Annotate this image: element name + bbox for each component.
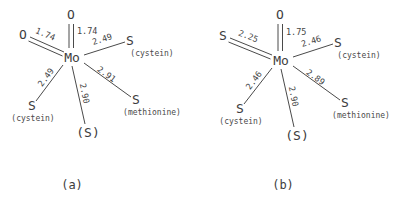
atom-s-upper-right-a: S — [126, 34, 134, 47]
ligand-name-lower-right-a: (methionine) — [123, 108, 181, 117]
atom-s-lower-left-b: S — [236, 102, 244, 115]
atom-s-upper-right-b: S — [334, 36, 342, 49]
figure-root: O O Mo S (cystein) S (cystein) (S) S (me… — [0, 0, 410, 207]
panel-caption-a: (a) — [61, 179, 83, 191]
bond-mo-s-upperleft-2 — [229, 42, 271, 59]
ligand-name-lower-left-a: (cystein) — [11, 114, 54, 123]
atom-o-top-b: O — [276, 8, 284, 21]
panel-caption-b: (b) — [272, 179, 294, 191]
atom-s-down-b: (S) — [285, 129, 308, 142]
atom-s-lower-right-a: S — [132, 93, 140, 106]
atom-mo-center-b: Mo — [273, 54, 289, 67]
distance-top-a: 1.74 — [77, 27, 97, 36]
bond-mo-s-upperright — [84, 42, 125, 55]
panel-b: O S Mo S (cystein) S (cystein) (S) S (me… — [205, 0, 410, 207]
atom-o-top-a: O — [67, 8, 75, 21]
bond-mo-o-upperleft-2 — [29, 41, 63, 56]
panel-a: O O Mo S (cystein) S (cystein) (S) S (me… — [0, 0, 205, 207]
distance-top-b: 1.75 — [286, 28, 306, 37]
ligand-name-lower-right-b: (methionine) — [332, 111, 390, 120]
ligand-name-upper-right-a: (cystein) — [130, 49, 173, 58]
atom-s-upper-left-b: S — [219, 29, 227, 42]
atom-s-lower-left-a: S — [28, 99, 36, 112]
panel-a-bonds — [0, 0, 205, 165]
atom-s-down-a: (S) — [76, 126, 99, 139]
ligand-name-lower-left-b: (cystein) — [219, 117, 262, 126]
bond-mo-s-upperright — [293, 44, 333, 57]
atom-mo-center-a: Mo — [64, 51, 80, 64]
ligand-name-upper-right-b: (cystein) — [337, 51, 380, 60]
atom-o-upper-left-a: O — [19, 28, 27, 41]
atom-s-lower-right-b: S — [341, 96, 349, 109]
